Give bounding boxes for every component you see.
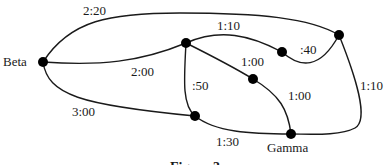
node-label-beta: Beta: [3, 54, 27, 69]
edge-beta-topright: [43, 13, 339, 62]
edge-label-topright-gamma: 1:10: [360, 78, 383, 93]
edge-beta-topmid: [43, 43, 186, 63]
edge-label-topmid-center: 1:00: [241, 54, 264, 69]
edge-label-beta-bottomleft: 3:00: [72, 104, 95, 119]
node-top-right: [334, 30, 344, 40]
node-center: [248, 74, 258, 84]
edge-center-gamma: [253, 79, 291, 134]
node-label-gamma: Gamma: [267, 140, 308, 155]
edge-topmid-midright: [186, 35, 282, 52]
figure-caption: Figure 3: [170, 160, 220, 165]
edge-label-beta-topright: 2:20: [83, 3, 106, 18]
graph-diagram: Beta Gamma 2:20 2:00 3:00 1:10 :40 1:00 …: [0, 0, 387, 165]
node-gamma: [286, 129, 296, 139]
node-beta: [38, 57, 48, 67]
node-bottom-left: [190, 111, 200, 121]
edge-beta-bottomleft: [43, 62, 195, 116]
edge-label-beta-topmid: 2:00: [131, 64, 154, 79]
edge-label-topmid-midright: 1:10: [217, 18, 240, 33]
node-mid-right: [277, 47, 287, 57]
edge-label-center-gamma: 1:00: [288, 88, 311, 103]
edge-label-topmid-bottomleft: :50: [192, 78, 209, 93]
node-top-mid: [181, 38, 191, 48]
edge-label-bottomleft-gamma: 1:30: [216, 134, 239, 149]
edge-label-midright-topright: :40: [300, 42, 317, 57]
edge-bottomleft-gamma: [195, 116, 291, 134]
